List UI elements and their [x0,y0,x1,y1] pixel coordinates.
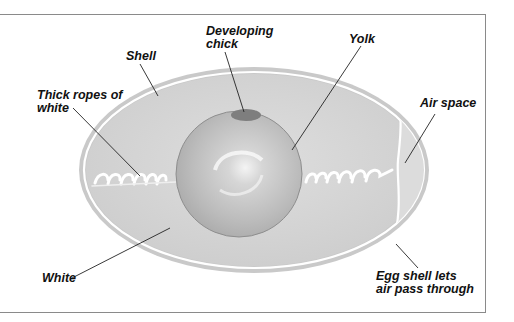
label-egg-shell-air: Egg shell lets air pass through [376,270,474,296]
label-shell: Shell [126,50,156,63]
label-yolk: Yolk [349,33,375,46]
developing-chick [231,109,261,121]
label-developing-chick: Developing chick [206,25,273,51]
label-white: White [42,272,76,285]
yolk [176,111,302,237]
label-thick-ropes: Thick ropes of white [37,89,122,115]
label-air-space: Air space [420,97,476,110]
